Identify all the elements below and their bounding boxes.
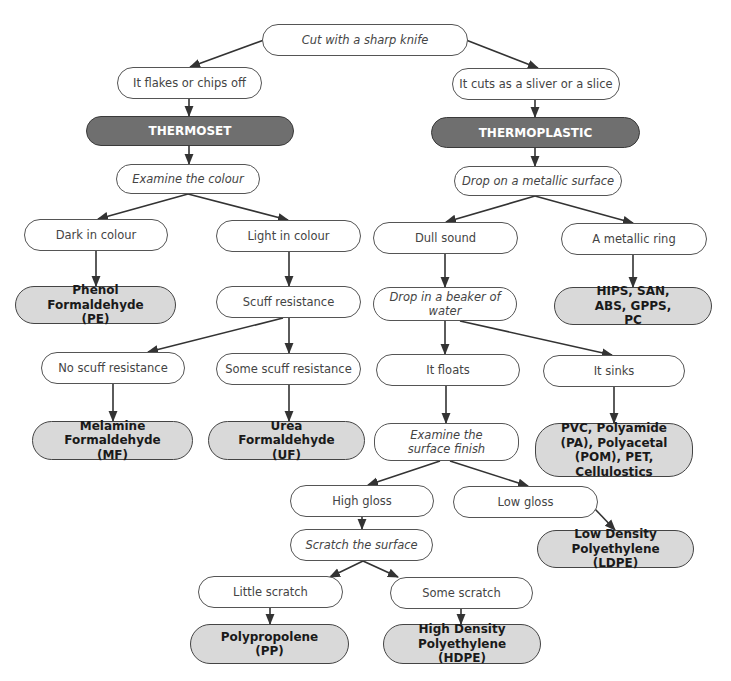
edge-drop-ring — [535, 196, 633, 223]
edge-scratch-some — [363, 561, 398, 577]
node-little-scratch: Little scratch — [198, 576, 343, 608]
node-some-scuff-resistance: Some scuff resistance — [216, 353, 361, 385]
node-it-floats: It floats — [376, 354, 520, 386]
node-thermoset: THERMOSET — [86, 116, 294, 146]
node-result-pvc-polyamide: PVC, Polyamide (PA), Polyacetal (POM), P… — [535, 423, 693, 477]
node-dull-sound: Dull sound — [373, 222, 518, 254]
edges-layer — [0, 0, 731, 681]
node-drop-on-metal: Drop on a metallic surface — [454, 166, 622, 196]
node-dark-in-colour: Dark in colour — [24, 219, 168, 251]
node-scuff-resistance: Scuff resistance — [216, 286, 361, 318]
node-no-scuff-resistance: No scuff resistance — [41, 352, 185, 384]
node-high-gloss: High gloss — [290, 485, 434, 517]
edge-cut-flakes — [190, 40, 264, 67]
node-cut-with-knife: Cut with a sharp knife — [262, 24, 468, 56]
node-it-sinks: It sinks — [543, 355, 685, 387]
node-result-urea-formaldehyde: Urea Formaldehyde (UF) — [208, 421, 365, 460]
node-result-melamine-formaldehyde: Melamine Formaldehyde (MF) — [32, 421, 193, 460]
node-thermoplastic: THERMOPLASTIC — [431, 117, 640, 148]
node-cuts-as-sliver: It cuts as a sliver or a slice — [452, 68, 620, 100]
edge-surface-low — [450, 461, 528, 486]
edge-examine-light — [188, 194, 288, 220]
node-low-gloss: Low gloss — [453, 486, 598, 518]
node-result-hips-san-abs: HIPS, SAN, ABS, GPPS, PC — [554, 287, 712, 325]
node-some-scratch: Some scratch — [390, 577, 533, 609]
node-result-phenol-formaldehyde: Phenol Formaldehyde (PE) — [15, 286, 176, 324]
node-metallic-ring: A metallic ring — [561, 223, 707, 255]
node-result-hdpe: High Density Polyethylene (HDPE) — [383, 624, 541, 664]
node-result-polypropolene: Polypropolene (PP) — [190, 624, 349, 664]
edge-scuff-noscuff — [148, 318, 283, 352]
edge-scratch-little — [330, 561, 363, 577]
edge-drop-dull — [446, 196, 535, 222]
plastic-identification-flowchart: Cut with a sharp knife It flakes or chip… — [0, 0, 731, 681]
node-examine-colour: Examine the colour — [116, 164, 260, 194]
node-examine-surface: Examine the surface finish — [374, 423, 519, 461]
edge-surface-high — [368, 461, 440, 485]
node-light-in-colour: Light in colour — [216, 220, 361, 252]
node-drop-in-water: Drop in a beaker of water — [373, 287, 517, 321]
edge-cut-sliver — [466, 40, 538, 68]
edge-examine-dark — [98, 194, 188, 219]
node-result-ldpe: Low Density Polyethylene (LDPE) — [537, 530, 694, 568]
node-flakes-or-chips: It flakes or chips off — [117, 67, 262, 99]
node-scratch-surface: Scratch the surface — [290, 529, 433, 561]
